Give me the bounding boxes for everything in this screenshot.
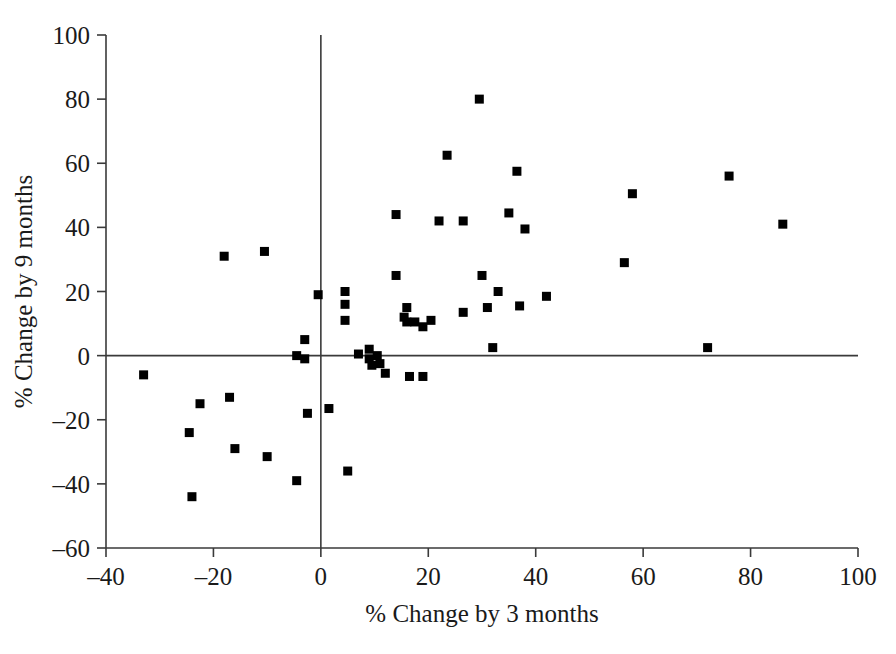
x-tick-label-0: –40 — [86, 563, 125, 590]
data-point — [494, 287, 503, 296]
data-point — [402, 303, 411, 312]
data-point — [778, 220, 787, 229]
data-point — [418, 322, 427, 331]
data-point — [324, 404, 333, 413]
y-tick-label-4: 20 — [65, 279, 90, 306]
data-point — [515, 301, 524, 310]
data-point — [292, 476, 301, 485]
data-point — [483, 303, 492, 312]
data-point — [225, 393, 234, 402]
data-point — [260, 247, 269, 256]
data-point — [185, 428, 194, 437]
x-tick-label-6: 80 — [738, 563, 763, 590]
data-point — [367, 361, 376, 370]
y-axis-title: % Change by 9 months — [10, 175, 37, 408]
data-point — [314, 290, 323, 299]
data-point — [373, 351, 382, 360]
data-point — [620, 258, 629, 267]
data-point — [300, 335, 309, 344]
x-tick-label-2: 0 — [315, 563, 328, 590]
data-point — [341, 316, 350, 325]
data-point — [341, 300, 350, 309]
y-tick-label-6: 60 — [65, 150, 90, 177]
data-point — [504, 208, 513, 217]
y-tick-label-3: 0 — [78, 343, 91, 370]
data-point — [459, 308, 468, 317]
data-point — [703, 343, 712, 352]
data-point — [402, 317, 411, 326]
data-point — [292, 351, 301, 360]
data-point — [628, 189, 637, 198]
y-tick-label-0: –60 — [52, 535, 91, 562]
data-point — [341, 287, 350, 296]
data-point — [435, 216, 444, 225]
data-point — [230, 444, 239, 453]
data-point — [426, 316, 435, 325]
y-tick-label-2: –20 — [52, 407, 91, 434]
x-tick-label-3: 20 — [416, 563, 441, 590]
data-point — [392, 210, 401, 219]
plot-canvas: –40–20020406080100–60–40–20020406080100%… — [0, 0, 896, 654]
data-point — [418, 372, 427, 381]
data-point — [196, 399, 205, 408]
data-point — [303, 409, 312, 418]
data-point — [475, 95, 484, 104]
data-point — [300, 354, 309, 363]
data-point — [512, 167, 521, 176]
data-point — [392, 271, 401, 280]
data-point — [343, 467, 352, 476]
y-tick-label-1: –40 — [52, 471, 91, 498]
x-tick-label-7: 100 — [839, 563, 877, 590]
y-tick-label-7: 80 — [65, 86, 90, 113]
data-point — [478, 271, 487, 280]
data-point — [187, 492, 196, 501]
x-tick-label-4: 40 — [523, 563, 548, 590]
data-point — [725, 172, 734, 181]
data-point — [220, 252, 229, 261]
data-point — [459, 216, 468, 225]
x-tick-label-1: –20 — [194, 563, 233, 590]
data-point — [263, 452, 272, 461]
data-point — [443, 151, 452, 160]
data-point — [381, 369, 390, 378]
x-tick-label-5: 60 — [631, 563, 656, 590]
data-point — [354, 350, 363, 359]
data-point — [520, 224, 529, 233]
y-tick-label-8: 100 — [53, 22, 91, 49]
y-tick-label-5: 40 — [65, 214, 90, 241]
data-point — [488, 343, 497, 352]
data-point-group — [139, 95, 787, 502]
data-point — [365, 345, 374, 354]
scatter-plot-figure: –40–20020406080100–60–40–20020406080100%… — [0, 0, 896, 654]
data-point — [139, 370, 148, 379]
data-point — [375, 359, 384, 368]
x-axis-title: % Change by 3 months — [365, 600, 598, 627]
data-point — [405, 372, 414, 381]
data-point — [542, 292, 551, 301]
data-point — [410, 317, 419, 326]
